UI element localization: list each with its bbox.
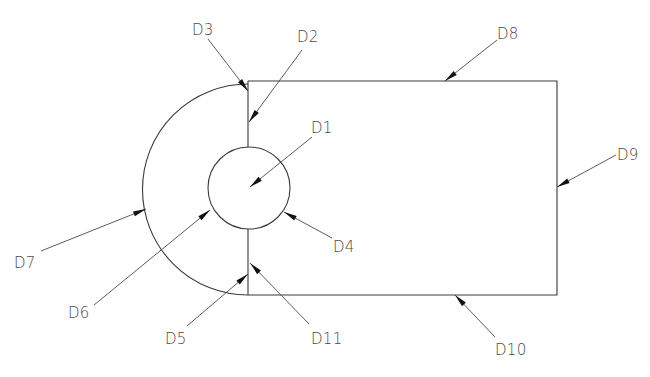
label-d3: D3 bbox=[192, 21, 214, 39]
inner-circle bbox=[208, 147, 290, 229]
label-d5: D5 bbox=[165, 330, 187, 348]
outer-arc bbox=[142, 84, 248, 295]
leader-d2 bbox=[249, 50, 302, 122]
leaders bbox=[41, 39, 616, 337]
label-d6: D6 bbox=[68, 304, 90, 322]
label-d1: D1 bbox=[311, 119, 333, 137]
label-d4: D4 bbox=[333, 238, 355, 256]
leader-d6 bbox=[94, 210, 210, 305]
label-d11: D11 bbox=[311, 330, 343, 348]
arrowhead-d9 bbox=[557, 179, 570, 187]
drawing-canvas: D1 D2 D3 D4 D5 D6 D7 D8 D9 D10 D11 bbox=[0, 0, 650, 377]
label-d8: D8 bbox=[497, 25, 519, 43]
arrowhead-d2 bbox=[249, 110, 259, 122]
label-d10: D10 bbox=[495, 341, 527, 359]
arrowhead-d3 bbox=[238, 79, 248, 91]
leader-d7 bbox=[41, 209, 146, 251]
label-d7: D7 bbox=[14, 254, 36, 272]
arrowhead-d1 bbox=[250, 177, 262, 187]
arrowhead-d8 bbox=[445, 71, 457, 81]
arrowhead-d7 bbox=[133, 209, 146, 216]
arrowhead-d4 bbox=[284, 212, 297, 220]
label-d2: D2 bbox=[297, 28, 319, 46]
part-geometry bbox=[142, 81, 557, 295]
labels: D1 D2 D3 D4 D5 D6 D7 D8 D9 D10 D11 bbox=[14, 21, 639, 359]
rectangle-outline bbox=[248, 81, 557, 295]
label-d9: D9 bbox=[617, 146, 639, 164]
